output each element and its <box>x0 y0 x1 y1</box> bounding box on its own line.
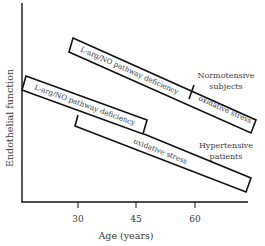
endothelial-function-diagram: 30 45 60 Age (years) Endothelial functio… <box>0 0 265 246</box>
x-tick-label-45: 45 <box>130 214 142 224</box>
normotensive-group-label-line1: Normotensive <box>197 71 254 80</box>
x-tick-label-30: 30 <box>72 214 84 224</box>
y-axis-label: Endothelial function <box>4 69 15 167</box>
hypertensive-larg-no-label: L-arg/NO pathway deficiency <box>33 82 137 127</box>
hypertensive-group-label-line2: patients <box>210 152 243 161</box>
normotensive-oxidative-label: oxidative stress <box>197 94 253 126</box>
normotensive-group-label-line2: subjects <box>209 82 242 91</box>
hypertensive-group-label-line1: Hypertensive <box>199 141 253 150</box>
hypertensive-larg-band: L-arg/NO pathway deficiency <box>22 76 147 134</box>
x-axis-label: Age (years) <box>97 230 153 241</box>
normotensive-larg-no-label: L-arg/NO pathway deficiency <box>79 45 181 97</box>
x-tick-label-60: 60 <box>189 214 201 224</box>
